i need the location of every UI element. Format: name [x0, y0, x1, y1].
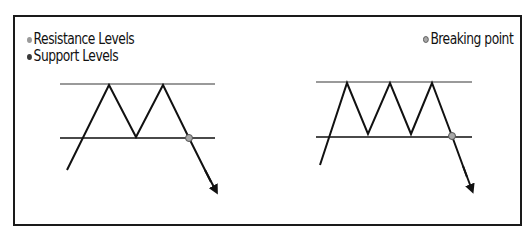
price-path	[67, 85, 211, 182]
pattern-diagram	[0, 0, 530, 235]
downward-arrow-icon	[205, 170, 216, 191]
triple-top-pattern	[316, 82, 472, 190]
breaking-point-icon	[449, 133, 456, 140]
double-top-pattern	[60, 84, 216, 191]
downward-arrow-icon	[463, 166, 472, 190]
price-path	[320, 83, 467, 177]
breaking-point-icon	[186, 135, 193, 142]
